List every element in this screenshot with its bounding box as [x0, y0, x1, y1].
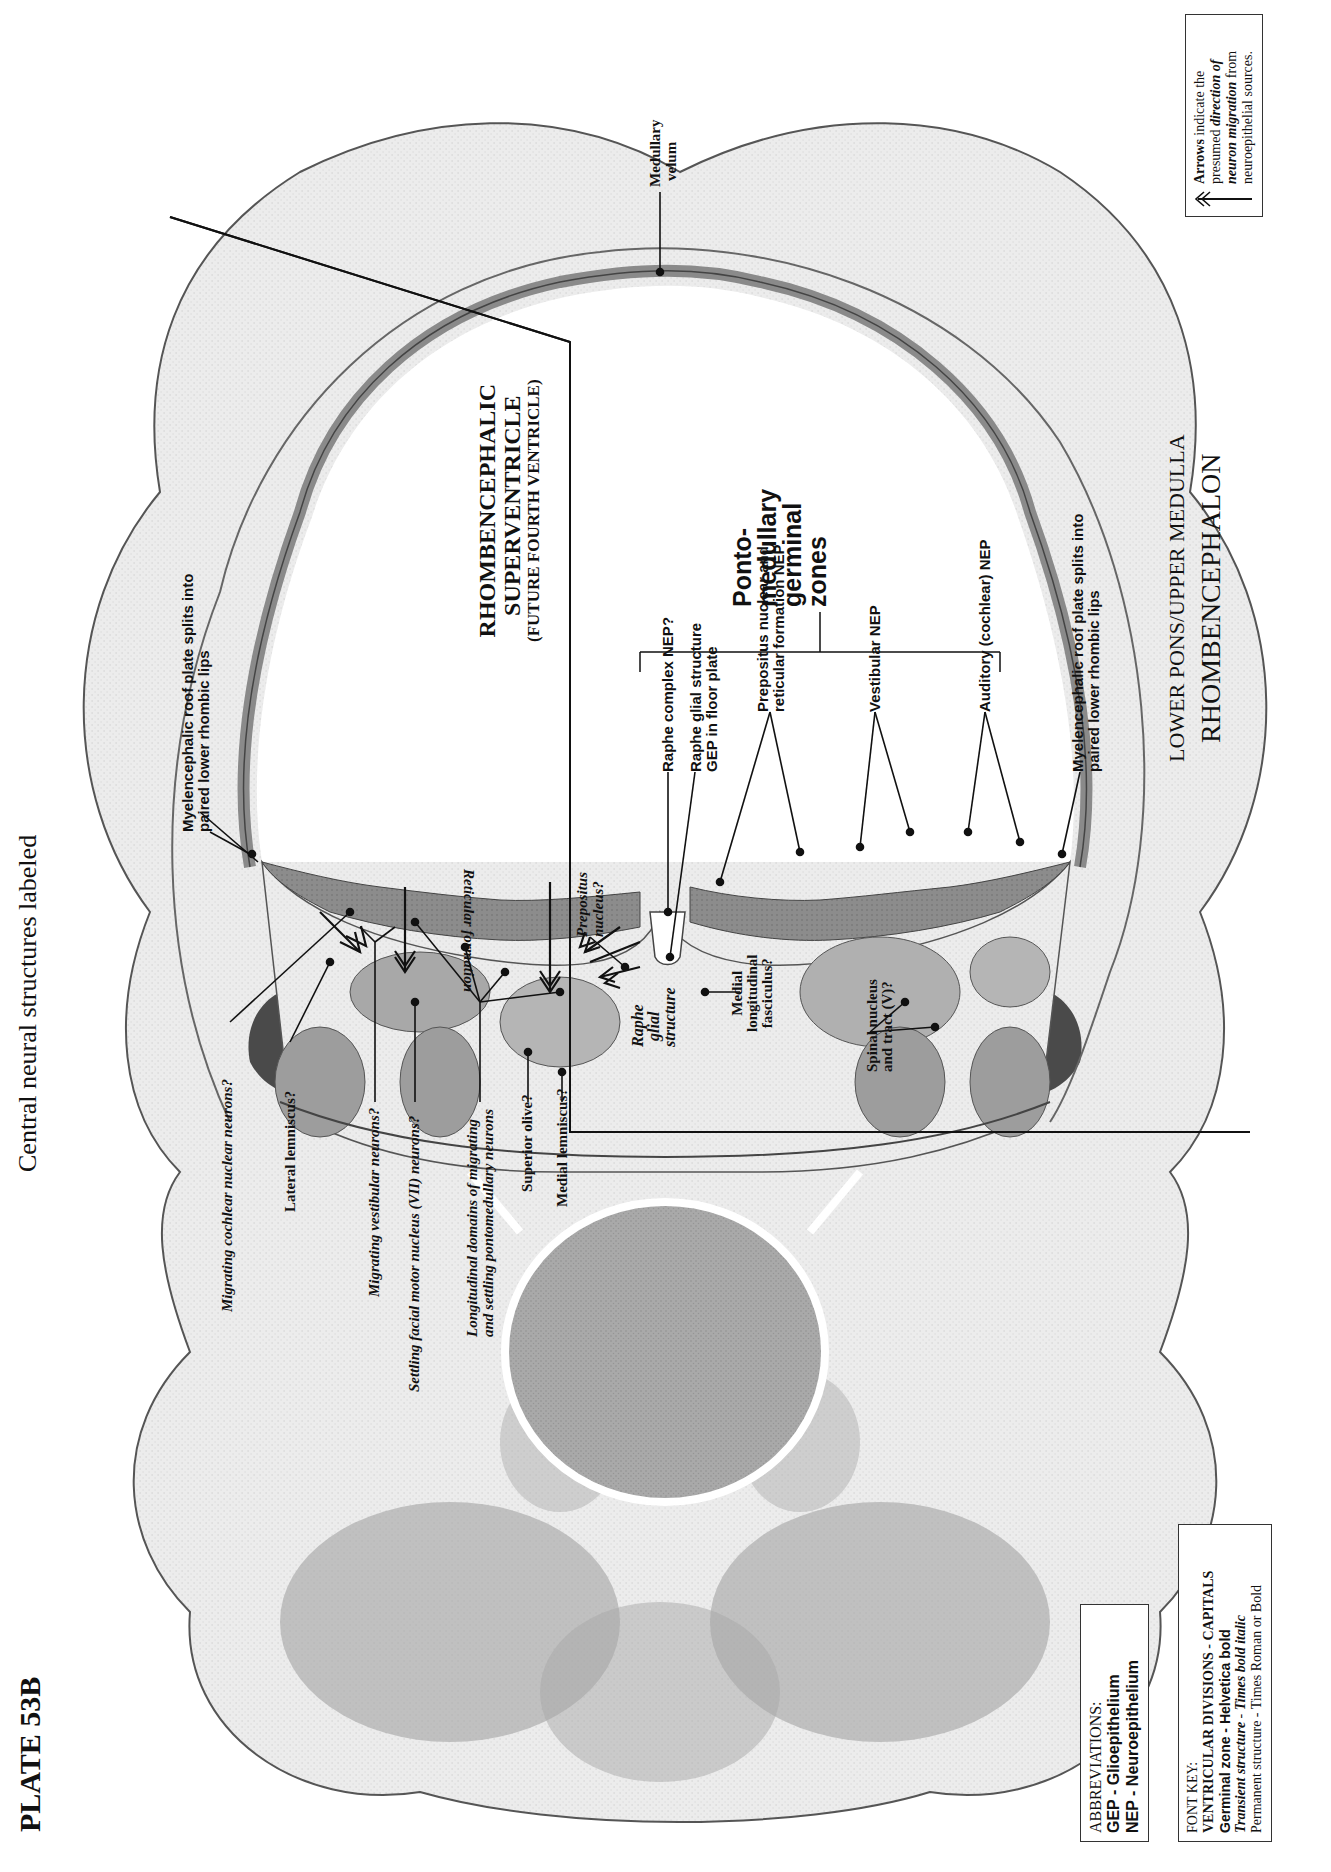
font-key-line3a: Transient structure [1233, 1722, 1248, 1833]
abbreviation-nep: NEP - Neuroepithelium [1124, 1613, 1142, 1833]
label-roof-plate-right: Myelencephalic roof plate splits into pa… [1070, 514, 1102, 772]
label-mlf-3: fasciculus? [760, 954, 775, 1032]
germinal-line1: Ponto- [730, 489, 755, 607]
brain-section-illustration [0, 0, 1331, 1872]
label-medullary-velum-2: velum [664, 120, 680, 188]
label-auditory-nep: Auditory (cochlear) NEP [977, 539, 993, 712]
label-reticular-formation: Reticular formation [460, 869, 476, 992]
label-prepositus-nep-2: reticular formation NEP [771, 544, 787, 712]
plate-page: PLATE 53B Central neural structures labe… [0, 0, 1331, 1872]
arrow-legend-line4: neuroepithelial sources. [1240, 51, 1256, 184]
label-mlf-2: longitudinal [745, 954, 760, 1032]
plate-number: PLATE 53B [14, 1677, 46, 1832]
label-longitudinal-domains: Longitudinal domains of migrating and se… [465, 1109, 497, 1337]
arrow-legend-line1b: indicate the [1192, 71, 1207, 139]
arrow-legend-line2a: presumed [1208, 126, 1223, 184]
arrow-legend-line3b: from [1224, 51, 1239, 82]
font-key-line4: Permanent structure - Times Roman or Bol… [1249, 1533, 1265, 1833]
arrow-legend-box: Arrows indicate the presumed direction o… [1185, 14, 1263, 217]
label-migrating-vestibular: Migrating vestibular neurons? [367, 1108, 383, 1297]
label-longitudinal-domains-2: and settling pontomedullary neurons [481, 1109, 497, 1337]
ventricle-line3: (FUTURE FOURTH VENTRICLE) [525, 379, 543, 642]
label-prepositus-nucleus-1: Prepositus [575, 872, 591, 937]
arrow-legend-line3a: neuron migration [1224, 82, 1239, 184]
label-mlf-1: Medial [730, 954, 745, 1032]
label-longitudinal-domains-1: Longitudinal domains of migrating [465, 1109, 481, 1337]
font-key-line3b: - [1233, 1710, 1248, 1722]
abbreviation-gep: GEP - Glioepithelium [1105, 1613, 1123, 1833]
label-roof-plate-left-2: paired lower rhombic lips [196, 574, 212, 832]
font-key-line3c: Times bold italic [1233, 1615, 1248, 1710]
font-key-line1: VENTRICULAR DIVISIONS - CAPITALS [1201, 1533, 1217, 1833]
double-arrow-icon [1192, 190, 1254, 208]
germinal-line4: zones [805, 489, 830, 607]
arrow-legend-line1a: Arrows [1192, 139, 1207, 184]
label-medullary-velum: Medullary velum [648, 120, 680, 188]
arrow-legend-line2b: direction of [1208, 60, 1223, 127]
label-raphe-glial-structure-1: Raphe [630, 987, 646, 1047]
label-migrating-cochlear: Migrating cochlear nuclear neurons? [220, 1079, 236, 1312]
label-raphe-glial-gep-2: GEP in floor plate [704, 623, 720, 772]
label-medial-lemniscus: Medial lemniscus? [555, 1088, 571, 1207]
label-facial-motor: Settling facial motor nucleus (VII) neur… [407, 1116, 423, 1392]
font-key-line2: Germinal zone - Helvetica bold [1217, 1533, 1233, 1833]
label-prepositus-nucleus: Prepositus nucleus? [575, 872, 607, 937]
division-line2: RHOMBENCEPHALON [1196, 434, 1225, 762]
plate-subtitle: Central neural structures labeled [14, 835, 41, 1172]
label-raphe-glial-structure-2: glial [646, 987, 662, 1047]
label-roof-plate-right-2: paired lower rhombic lips [1086, 514, 1102, 772]
label-raphe-glial-structure: Raphe glial structure [630, 987, 678, 1047]
label-roof-plate-left: Myelencephalic roof plate splits into pa… [180, 574, 212, 832]
label-spinal-v-1: Spinal nucleus [865, 979, 880, 1072]
label-raphe-complex-nep: Raphe complex NEP? [660, 617, 676, 772]
label-mlf: Medial longitudinal fasciculus? [730, 954, 775, 1032]
label-raphe-glial-structure-3: structure [662, 987, 678, 1047]
basioccipital-cartilage [505, 1202, 825, 1502]
label-roof-plate-left-1: Myelencephalic roof plate splits into [180, 574, 196, 832]
font-key-box: FONT KEY: VENTRICULAR DIVISIONS - CAPITA… [1178, 1524, 1272, 1842]
label-spinal-v: Spinal nucleus and tract (V)? [865, 979, 895, 1072]
label-raphe-glial-gep: Raphe glial structure GEP in floor plate [688, 623, 720, 772]
label-medullary-velum-1: Medullary [648, 120, 664, 188]
division-line1: LOWER PONS/UPPER MEDULLA [1165, 434, 1188, 762]
division-label: LOWER PONS/UPPER MEDULLA RHOMBENCEPHALON [1165, 434, 1225, 762]
label-lateral-lemniscus: Lateral lemniscus? [283, 1091, 299, 1212]
abbreviations-title: ABBREVIATIONS: [1087, 1613, 1105, 1833]
font-key-title: FONT KEY: [1185, 1533, 1201, 1833]
abbreviations-box: ABBREVIATIONS: GEP - Glioepithelium NEP … [1080, 1604, 1149, 1842]
label-prepositus-nep: Prepositus nuclear and reticular formati… [755, 544, 787, 712]
label-prepositus-nep-1: Prepositus nuclear and [755, 544, 771, 712]
label-roof-plate-right-1: Myelencephalic roof plate splits into [1070, 514, 1086, 772]
label-prepositus-nucleus-2: nucleus? [591, 872, 607, 937]
label-vestibular-nep: Vestibular NEP [867, 605, 883, 712]
label-raphe-glial-gep-1: Raphe glial structure [688, 623, 704, 772]
label-spinal-v-2: and tract (V)? [880, 979, 895, 1072]
label-superior-olive: Superior olive? [520, 1094, 536, 1192]
ventricle-line2: SUPERVENTRICLE [500, 379, 525, 642]
ventricle-label: RHOMBENCEPHALIC SUPERVENTRICLE (FUTURE F… [475, 379, 543, 642]
ventricle-line1: RHOMBENCEPHALIC [475, 379, 500, 642]
